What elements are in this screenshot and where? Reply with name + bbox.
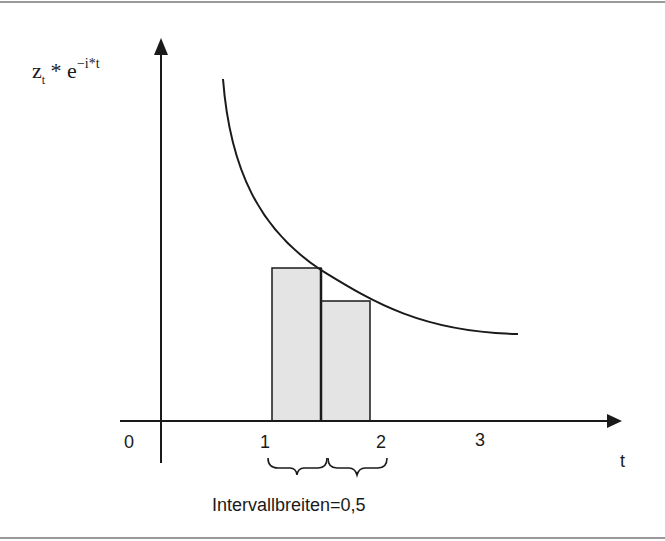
bar-interval-1 [272, 268, 321, 421]
x-tick-3: 3 [475, 430, 485, 450]
x-tick-1: 1 [260, 432, 270, 452]
x-axis-arrow-icon [607, 414, 622, 428]
y-axis-arrow-icon [154, 38, 168, 55]
brace-interval-2 [328, 458, 387, 475]
bar-interval-2 [321, 301, 370, 421]
x-tick-0: 0 [124, 432, 134, 452]
x-axis-label: t [620, 451, 625, 471]
y-axis-label: zt * e−i*t [32, 56, 100, 87]
x-tick-2: 2 [376, 432, 386, 452]
diagram-canvas: zt * e−i*t 0 1 2 3 t Intervallbreiten=0,… [0, 0, 665, 541]
brace-interval-1 [268, 458, 327, 475]
discount-curve [223, 79, 518, 334]
interval-width-label: Intervallbreiten=0,5 [212, 495, 366, 515]
